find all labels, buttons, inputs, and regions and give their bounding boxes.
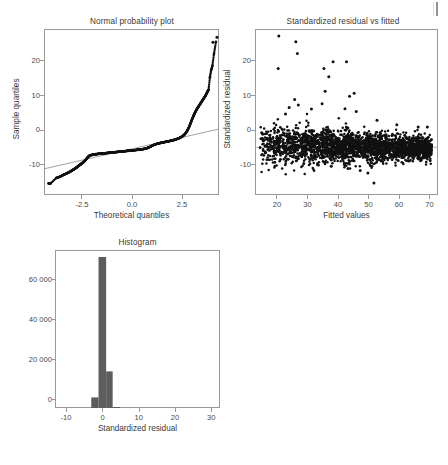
xtick-hist-neg10: -10 — [50, 413, 82, 422]
ytick-hist-20000: 20 000 — [8, 355, 52, 364]
xtickmark-scatter-70 — [429, 195, 430, 199]
xtickmark-qq-2p5 — [182, 195, 183, 199]
panel-title-resid-vs-fitted: Standardized residual vs fitted — [248, 17, 438, 26]
xtickmark-hist-0 — [102, 408, 103, 412]
panel-normal-probability-plot: Normal probability plot 20 10 0 -10 -2.5… — [0, 0, 230, 230]
xtickmark-scatter-40 — [338, 195, 339, 199]
xtick-hist-30: 30 — [195, 413, 227, 422]
xtickmark-qq-neg2p5 — [81, 195, 82, 199]
panel-histogram: Histogram 60 000 40 000 20 000 0 -10 0 1… — [0, 230, 230, 465]
panel-standardized-residual-vs-fitted: Standardized residual vs fitted 20 10 0 … — [230, 0, 448, 230]
xtickmark-scatter-50 — [368, 195, 369, 199]
xtick-scatter-60: 60 — [383, 200, 415, 209]
xtick-scatter-30: 30 — [292, 200, 324, 209]
xtickmark-qq-0 — [132, 195, 133, 199]
scan-artifact-edge — [433, 2, 434, 16]
ytick-hist-0: 0 — [8, 395, 52, 404]
xtick-qq-0: 0.0 — [116, 200, 148, 209]
figure-canvas: Normal probability plot 20 10 0 -10 -2.5… — [0, 0, 448, 465]
yaxis-label-scatter: Standardized residual — [223, 26, 232, 192]
histogram-bars-layer — [55, 250, 220, 408]
xtickmark-hist-20 — [175, 408, 176, 412]
xtickmark-hist-neg10 — [66, 408, 67, 412]
xtick-qq-2p5: 2.5 — [166, 200, 198, 209]
xtickmark-hist-30 — [211, 408, 212, 412]
ytick-hist-60000: 60 000 — [8, 275, 52, 284]
xtickmark-scatter-60 — [399, 195, 400, 199]
qq-points-layer — [44, 29, 219, 195]
xaxis-label-scatter: Fitted values — [255, 211, 438, 220]
panel-title-histogram: Histogram — [55, 238, 220, 247]
xtick-hist-20: 20 — [159, 413, 191, 422]
xaxis-label-qq: Theoretical quantiles — [44, 211, 219, 220]
xtick-scatter-40: 40 — [322, 200, 354, 209]
xtick-hist-10: 10 — [123, 413, 155, 422]
scan-artifact-mark — [436, 2, 438, 16]
xtick-qq-neg2p5: -2.5 — [66, 200, 98, 209]
scatter-points-layer — [255, 29, 438, 195]
xtickmark-scatter-20 — [276, 195, 277, 199]
xtick-scatter-20: 20 — [261, 200, 293, 209]
xtick-scatter-70: 70 — [414, 200, 446, 209]
panel-title-normal-probability-plot: Normal probability plot — [44, 17, 220, 26]
ytick-hist-40000: 40 000 — [8, 315, 52, 324]
xtick-scatter-50: 50 — [353, 200, 385, 209]
xtick-hist-0: 0 — [87, 413, 119, 422]
xtickmark-hist-10 — [139, 408, 140, 412]
xaxis-label-histogram: Standardized residual — [55, 424, 220, 433]
yaxis-label-qq: Sample quartiles — [12, 26, 21, 192]
xtickmark-scatter-30 — [307, 195, 308, 199]
